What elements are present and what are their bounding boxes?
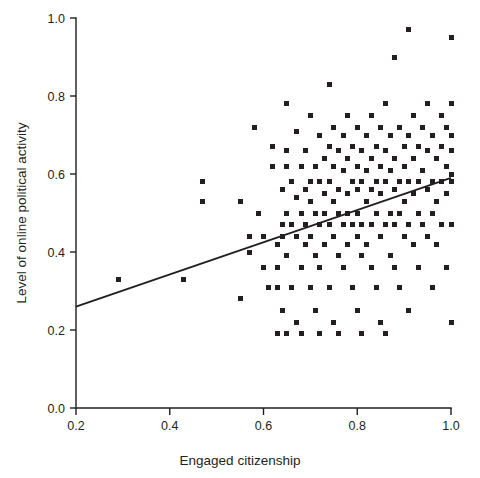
data-point <box>449 222 454 227</box>
data-point <box>425 148 430 153</box>
data-point <box>411 113 416 118</box>
data-point <box>383 179 388 184</box>
data-point <box>449 172 454 177</box>
y-tick-label-2: 0.4 <box>48 246 65 260</box>
chart-canvas: 0.20.40.60.81.0 0.00.20.40.60.81.0 Engag… <box>0 0 480 478</box>
data-point <box>355 187 360 192</box>
data-point <box>345 156 350 161</box>
data-point <box>261 265 266 270</box>
data-point <box>397 179 402 184</box>
data-point <box>425 101 430 106</box>
data-point <box>369 265 374 270</box>
data-point <box>430 211 435 216</box>
data-point <box>397 125 402 130</box>
data-point <box>378 234 383 239</box>
x-tick-label-3: 0.8 <box>349 419 366 433</box>
data-point <box>406 308 411 313</box>
data-point <box>238 296 243 301</box>
data-point <box>275 242 280 247</box>
data-point <box>303 187 308 192</box>
data-point <box>284 253 289 258</box>
data-point <box>411 242 416 247</box>
data-point <box>299 265 304 270</box>
data-point <box>322 211 327 216</box>
data-point <box>275 331 280 336</box>
x-tick-label-1: 0.4 <box>161 419 178 433</box>
data-point <box>359 148 364 153</box>
data-point <box>416 265 421 270</box>
data-point <box>327 144 332 149</box>
data-points <box>116 27 454 336</box>
data-point <box>369 113 374 118</box>
data-point <box>420 168 425 173</box>
data-point <box>313 308 318 313</box>
data-point <box>416 211 421 216</box>
data-point <box>200 199 205 204</box>
x-tick-label-2: 0.6 <box>255 419 272 433</box>
data-point <box>238 199 243 204</box>
data-point <box>313 164 318 169</box>
y-tick-labels: 0.00.20.40.60.81.0 <box>48 12 65 416</box>
data-point <box>449 148 454 153</box>
data-point <box>434 242 439 247</box>
data-point <box>378 320 383 325</box>
data-point <box>374 144 379 149</box>
data-point <box>336 211 341 216</box>
data-point <box>336 331 341 336</box>
data-point <box>420 125 425 130</box>
data-point <box>322 191 327 196</box>
data-point <box>369 187 374 192</box>
axis-spines <box>76 18 451 408</box>
y-axis-title: Level of online political activity <box>14 122 29 303</box>
data-point <box>336 253 341 258</box>
data-point <box>322 242 327 247</box>
data-point <box>280 187 285 192</box>
data-point <box>374 179 379 184</box>
data-point <box>303 242 308 247</box>
data-point <box>359 222 364 227</box>
data-point <box>341 222 346 227</box>
data-point <box>317 133 322 138</box>
data-point <box>284 164 289 169</box>
data-point <box>388 253 393 258</box>
x-tick-label-0: 0.2 <box>67 419 84 433</box>
data-point <box>388 133 393 138</box>
data-point <box>449 101 454 106</box>
data-point <box>270 164 275 169</box>
data-point <box>284 331 289 336</box>
data-point <box>430 285 435 290</box>
data-point <box>331 125 336 130</box>
data-point <box>364 199 369 204</box>
data-point <box>294 195 299 200</box>
data-point <box>416 144 421 149</box>
data-point <box>425 187 430 192</box>
data-point <box>425 234 430 239</box>
data-point <box>345 242 350 247</box>
data-point <box>364 133 369 138</box>
data-point <box>439 144 444 149</box>
data-point <box>322 156 327 161</box>
data-point <box>181 277 186 282</box>
data-point <box>430 133 435 138</box>
data-point <box>256 211 261 216</box>
data-point <box>364 242 369 247</box>
data-point <box>444 125 449 130</box>
data-point <box>270 144 275 149</box>
data-point <box>402 164 407 169</box>
data-point <box>280 222 285 227</box>
data-point <box>341 168 346 173</box>
data-point <box>331 199 336 204</box>
data-point <box>247 250 252 255</box>
data-point <box>261 234 266 239</box>
x-axis-title: Engaged citizenship <box>180 453 301 468</box>
data-point <box>355 164 360 169</box>
data-point <box>406 27 411 32</box>
data-point <box>317 331 322 336</box>
data-point <box>280 308 285 313</box>
data-point <box>420 222 425 227</box>
data-point <box>383 331 388 336</box>
data-point <box>369 222 374 227</box>
data-point <box>284 211 289 216</box>
data-point <box>392 187 397 192</box>
data-point <box>313 253 318 258</box>
